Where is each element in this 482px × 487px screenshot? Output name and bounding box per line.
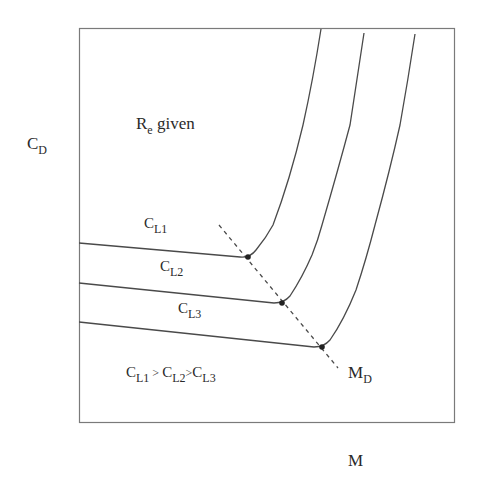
reynolds-annotation: Re given — [136, 114, 195, 137]
divergence-point-cl1 — [245, 254, 251, 260]
y-axis-label: CD — [27, 134, 47, 157]
curve-label-cl3: CL3 — [178, 300, 201, 321]
drag-divergence-label: MD — [348, 363, 372, 386]
lift-coefficient-relation: CL1 > CL2>CL3 — [126, 364, 216, 385]
curve-label-cl2: CL2 — [160, 258, 183, 279]
divergence-point-cl3 — [319, 344, 325, 350]
curve-cl1 — [79, 29, 321, 257]
divergence-point-cl2 — [279, 300, 285, 306]
curve-cl2 — [79, 33, 364, 303]
curve-label-cl1: CL1 — [144, 215, 167, 236]
cd-vs-mach-diagram: CD M Re given CL1 CL2 CL3 CL1 > CL2>CL3 … — [0, 0, 482, 487]
x-axis-label: M — [348, 451, 363, 470]
